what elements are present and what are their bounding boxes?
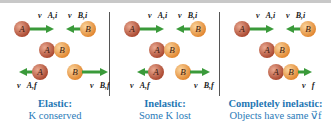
svg-text:A: A	[43, 45, 50, 55]
panel-elastic: A B v⃗A,i v⃗B,i A B A B v⃗A,f v⃗B,f Elas…	[0, 0, 110, 129]
svg-text:v⃗A,f: v⃗A,f	[17, 81, 38, 90]
svg-text:v⃗B,i: v⃗B,i	[178, 11, 198, 20]
svg-text:v⃗B,f: v⃗B,f	[194, 81, 215, 90]
caption-title: Completely inelastic:	[220, 98, 331, 110]
elastic-diagram: A B v⃗A,i v⃗B,i A B A B v⃗A,f v⃗B,f	[0, 0, 110, 100]
svg-text:B: B	[59, 45, 65, 55]
svg-text:A: A	[263, 45, 270, 55]
svg-text:A: A	[238, 24, 245, 34]
caption-title: Inelastic:	[110, 98, 220, 110]
arrow-icon	[66, 25, 74, 33]
svg-text:A: A	[36, 67, 43, 77]
panel-inelastic: A B v⃗A,i v⃗B,i A B A B v⃗A,f v⃗B,f Inel…	[110, 0, 220, 129]
svg-text:B: B	[195, 24, 201, 34]
svg-text:v⃗A,f: v⃗A,f	[130, 81, 151, 90]
svg-text:v⃗B,i: v⃗B,i	[286, 11, 306, 20]
svg-text:v⃗A,i: v⃗A,i	[148, 11, 168, 20]
svg-text:B: B	[288, 67, 294, 77]
svg-text:v⃗f: v⃗f	[302, 81, 316, 90]
svg-text:B: B	[180, 67, 186, 77]
svg-text:v⃗B,f: v⃗B,f	[90, 81, 110, 90]
svg-text:B: B	[305, 24, 311, 34]
svg-text:v⃗A,i: v⃗A,i	[38, 11, 58, 20]
svg-text:B: B	[72, 67, 78, 77]
svg-text:v⃗B,i: v⃗B,i	[68, 11, 88, 20]
caption-subtitle: Objects have same v⃗f	[220, 110, 331, 122]
svg-text:B: B	[279, 45, 285, 55]
caption-completely-inelastic: Completely inelastic: Objects have same …	[220, 98, 331, 122]
completely-inelastic-diagram: A B v⃗A,i v⃗B,i A B A B v⃗f	[220, 0, 331, 100]
inelastic-diagram: A B v⃗A,i v⃗B,i A B A B v⃗A,f v⃗B,f	[110, 0, 220, 100]
arrow-icon	[46, 25, 54, 33]
svg-text:B: B	[169, 45, 175, 55]
caption-subtitle: Some K lost	[110, 110, 220, 122]
svg-text:A: A	[152, 67, 159, 77]
svg-text:v⃗A,i: v⃗A,i	[256, 11, 276, 20]
caption-subtitle: K conserved	[0, 110, 110, 122]
svg-text:B: B	[85, 24, 91, 34]
svg-text:A: A	[272, 67, 279, 77]
caption-inelastic: Inelastic: Some K lost	[110, 98, 220, 122]
caption-title: Elastic:	[0, 98, 110, 110]
svg-text:A: A	[153, 45, 160, 55]
caption-elastic: Elastic: K conserved	[0, 98, 110, 122]
svg-text:A: A	[18, 24, 25, 34]
svg-text:A: A	[128, 24, 135, 34]
panel-completely-inelastic: A B v⃗A,i v⃗B,i A B A B v⃗f Completely i…	[220, 0, 331, 129]
